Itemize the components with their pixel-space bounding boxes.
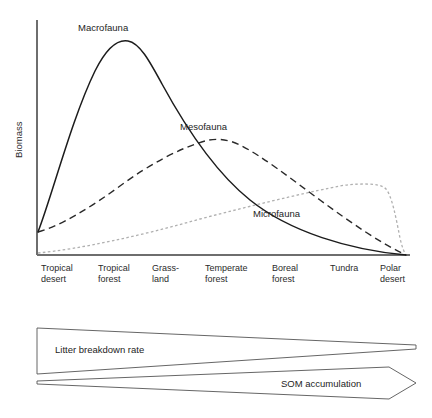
x-tick-0-line2: desert: [41, 274, 67, 284]
x-tick-6-line2: desert: [380, 274, 406, 284]
x-axis-tick-labels: Tropical desert Tropical forest Grass- l…: [41, 263, 406, 284]
x-tick-1-line1: Tropical: [98, 263, 130, 273]
series-line-microfauna: [38, 184, 406, 255]
figure-container: Biomass Macrofauna Mesofauna Microfauna …: [0, 0, 432, 418]
series-line-mesofauna: [38, 139, 406, 255]
series-label-microfauna: Microfauna: [253, 208, 301, 219]
x-tick-0-line1: Tropical: [41, 263, 73, 273]
som-accumulation-label: SOM accumulation: [281, 378, 361, 389]
x-tick-2-line2: land: [152, 274, 169, 284]
x-tick-6-line1: Polar: [380, 263, 401, 273]
x-tick-4-line1: Boreal: [272, 263, 298, 273]
series-label-macrofauna: Macrofauna: [78, 22, 129, 33]
series-label-mesofauna: Mesofauna: [180, 121, 228, 132]
biomass-chart: Biomass Macrofauna Mesofauna Microfauna …: [0, 0, 432, 418]
x-tick-4-line2: forest: [272, 274, 295, 284]
x-tick-5-line1: Tundra: [330, 263, 358, 273]
chart-axes: [37, 20, 410, 255]
x-tick-2-line1: Grass-: [152, 263, 179, 273]
litter-breakdown-label: Litter breakdown rate: [55, 344, 144, 355]
x-tick-3-line2: forest: [205, 274, 228, 284]
y-axis-title: Biomass: [13, 121, 24, 158]
x-tick-3-line1: Temperate: [205, 263, 248, 273]
x-tick-1-line2: forest: [98, 274, 121, 284]
